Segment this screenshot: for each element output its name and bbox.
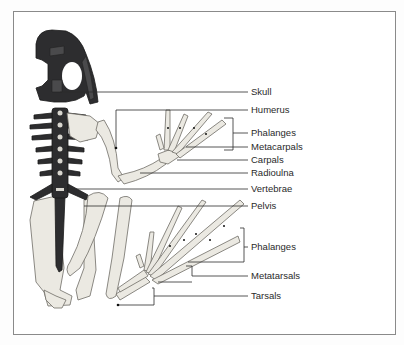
label-phalanges-fore: Phalanges — [251, 127, 296, 138]
label-tarsals: Tarsals — [251, 290, 281, 301]
label-skull: Skull — [251, 86, 272, 97]
label-carpals: Carpals — [251, 154, 284, 165]
label-radioulna: Radioulna — [251, 167, 294, 178]
frog-skeleton-diagram: Skull Humerus Phalanges Metacarpals Carp… — [0, 0, 404, 345]
label-pelvis: Pelvis — [251, 200, 277, 211]
label-vertebrae: Vertebrae — [251, 183, 292, 194]
label-metatarsals: Metatarsals — [251, 270, 300, 281]
label-phalanges-hind: Phalanges — [251, 241, 296, 252]
label-metacarpals: Metacarpals — [251, 141, 303, 152]
label-humerus: Humerus — [251, 104, 290, 115]
